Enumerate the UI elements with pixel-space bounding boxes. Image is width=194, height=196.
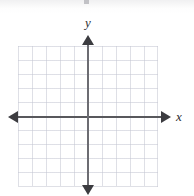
y-axis-down-arrowhead-icon — [82, 185, 94, 195]
y-axis-line — [87, 40, 89, 191]
scan-artifact-smudge — [0, 0, 194, 14]
x-axis-right-arrowhead-icon — [161, 111, 171, 123]
y-axis-up-arrowhead-icon — [82, 35, 94, 45]
x-axis-label: x — [176, 110, 182, 123]
scan-artifact-mark — [84, 0, 89, 4]
x-axis-line — [14, 116, 167, 118]
x-axis-left-arrowhead-icon — [8, 111, 18, 123]
y-axis-label: y — [85, 16, 91, 29]
coordinate-plane-figure: y x — [0, 0, 194, 196]
